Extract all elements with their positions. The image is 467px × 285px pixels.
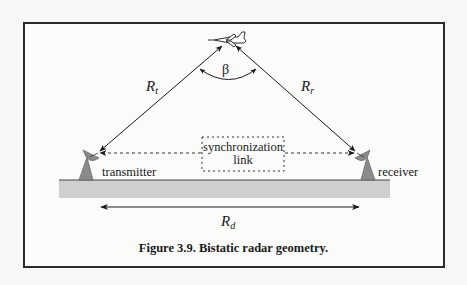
figure-caption: Figure 3.9. Bistatic radar geometry. xyxy=(0,241,467,256)
transmitter-antenna-icon xyxy=(79,150,99,180)
receiver-antenna-icon xyxy=(355,150,375,180)
aircraft-icon xyxy=(208,32,246,47)
sync-link-label: synchronization link xyxy=(202,141,284,167)
bistatic-angle-label: β xyxy=(222,62,229,78)
receiver-range-line xyxy=(236,46,355,151)
receiver-range-label: Rr xyxy=(301,78,314,96)
transmitter-range-label: Rt xyxy=(146,78,158,96)
transmitter-label: transmitter xyxy=(102,165,156,180)
sync-link-line2: link xyxy=(202,154,284,167)
ground xyxy=(59,180,390,198)
baseline-label: Rd xyxy=(221,213,235,231)
receiver-label: receiver xyxy=(378,165,418,180)
transmitter-range-line xyxy=(100,46,222,151)
